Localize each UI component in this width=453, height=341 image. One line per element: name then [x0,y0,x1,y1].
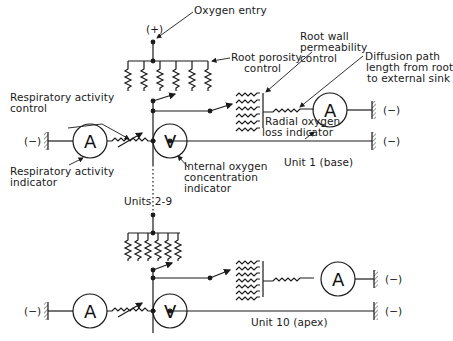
oxygen-entry-label: Oxygen entry [194,5,267,16]
diffusion-path-resistor-10 [263,278,314,281]
root-porosity-label-2: control [244,63,281,74]
diffusion-path-resistor [263,109,314,112]
minus-terminal-10c: (−) [385,306,402,317]
resp-control-label-2: control [10,103,47,114]
units-2-9-label: Units 2-9 [124,196,172,207]
internal-oxygen-label-3: indicator [184,183,231,194]
diffusion-label-3: to external sink [367,73,450,84]
minus-terminal-1a: (−) [24,136,41,147]
radial-loss-label-2: loss indicator [262,127,333,138]
plus-terminal-label: (+) [146,24,163,35]
root-wall-label-3: control [300,53,337,64]
minus-terminal-10b: (−) [385,274,402,285]
root-wall-permeability-resistors-10 [236,261,263,300]
minus-terminal-1c: (−) [383,136,400,147]
minus-terminal-10a: (−) [24,306,41,317]
root-porosity-resistors-10 [125,233,181,261]
unit-1-label: Unit 1 (base) [284,157,353,168]
root-wall-permeability-resistors [236,93,263,131]
root-porosity-resistors [125,61,211,91]
svg-text:A: A [84,131,97,152]
svg-text:V: V [164,131,177,152]
resp-indicator-label-2: indicator [10,177,57,188]
svg-text:A: A [84,301,97,322]
minus-terminal-1b: (−) [383,105,400,116]
svg-text:V: V [164,301,177,322]
svg-text:A: A [332,269,345,290]
unit-10-label: Unit 10 (apex) [251,317,328,328]
